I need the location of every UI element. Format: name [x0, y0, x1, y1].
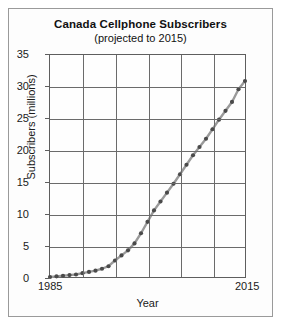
data-point-marker [119, 253, 123, 257]
gridline-vertical [116, 55, 117, 277]
data-point-marker [93, 269, 97, 273]
chart-subtitle: (projected to 2015) [9, 31, 272, 45]
y-axis-tick-mark [45, 54, 49, 55]
gridline-vertical [181, 55, 182, 277]
x-axis-tick-label: 2015 [235, 280, 259, 292]
data-point-marker [204, 137, 208, 141]
data-point-marker [191, 153, 195, 157]
y-axis-tick-mark [45, 86, 49, 87]
data-point-marker [165, 191, 169, 195]
y-axis-tick-mark [45, 246, 49, 247]
data-point-marker [243, 79, 247, 83]
data-point-marker [126, 248, 130, 252]
data-point-marker [184, 163, 188, 167]
data-point-marker [87, 270, 91, 274]
series-line-chart [50, 55, 245, 277]
data-point-marker [230, 100, 234, 104]
gridline-horizontal [50, 87, 245, 88]
gridline-vertical [83, 55, 84, 277]
gridline-horizontal [50, 183, 245, 184]
gridline-horizontal [50, 215, 245, 216]
y-axis-tick-mark [45, 150, 49, 151]
data-point-marker [106, 264, 110, 268]
y-axis-tick-mark [45, 182, 49, 183]
gridline-horizontal [50, 247, 245, 248]
data-point-marker [54, 274, 58, 278]
y-axis-tick-mark [45, 214, 49, 215]
gridline-vertical [214, 55, 215, 277]
plot-area [49, 54, 246, 278]
data-point-marker [67, 273, 71, 277]
title-block: Canada Cellphone Subscribers (projected … [9, 17, 272, 45]
gridline-horizontal [50, 119, 245, 120]
data-point-marker [158, 199, 162, 203]
data-point-marker [197, 145, 201, 149]
y-axis-tick-label: 5 [0, 241, 29, 251]
page-title: Canada Cellphone Subscribers [9, 17, 272, 31]
y-axis-tick-label: 30 [0, 81, 29, 91]
gridline-horizontal [50, 151, 245, 152]
x-axis-tick-label: 1985 [38, 280, 62, 292]
data-point-marker [74, 272, 78, 276]
y-axis-tick-label: 0 [0, 273, 29, 283]
data-point-marker [100, 267, 104, 271]
y-axis-tick-label: 25 [0, 113, 29, 123]
y-axis-tick-label: 35 [0, 49, 29, 59]
gridline-vertical [149, 55, 150, 277]
data-point-marker [139, 231, 143, 235]
y-axis-tick-mark [45, 118, 49, 119]
y-axis-tick-label: 10 [0, 209, 29, 219]
data-point-marker [223, 109, 227, 113]
data-point-marker [132, 241, 136, 245]
data-point-marker [61, 274, 65, 278]
y-axis-tick-mark [45, 278, 49, 279]
chart-figure: Canada Cellphone Subscribers (projected … [8, 8, 273, 317]
x-axis-title: Year [49, 297, 246, 309]
data-point-marker [152, 208, 156, 212]
y-axis-tick-label: 15 [0, 177, 29, 187]
y-axis-tick-label: 20 [0, 145, 29, 155]
